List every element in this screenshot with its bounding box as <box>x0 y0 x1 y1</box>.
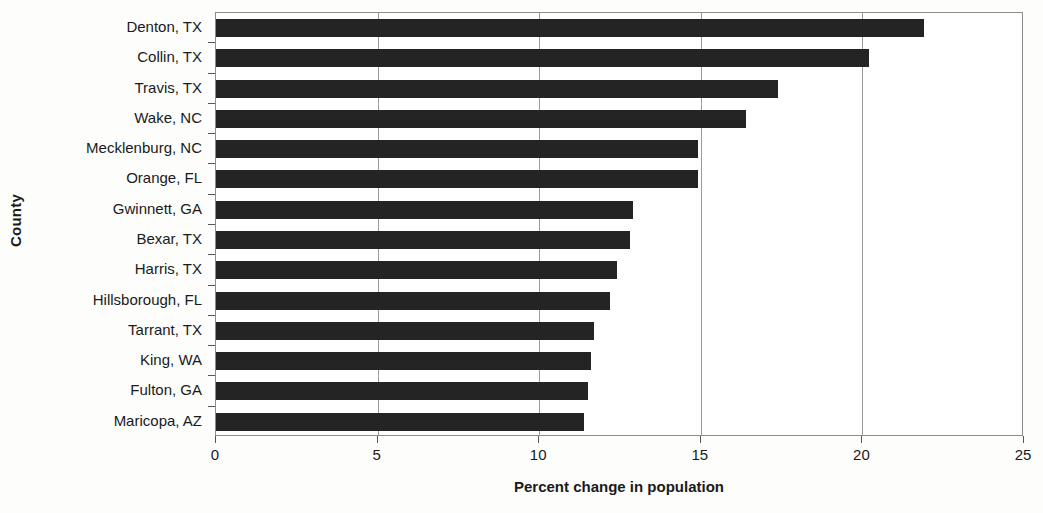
category-label: King, WA <box>140 345 202 375</box>
bar-row <box>216 13 1024 43</box>
y-axis-tick <box>208 73 215 74</box>
category-label: Denton, TX <box>126 12 202 42</box>
bar-row <box>216 104 1024 134</box>
bar-row <box>216 134 1024 164</box>
x-axis-ticks <box>215 436 1023 444</box>
category-label: Tarrant, TX <box>128 315 202 345</box>
bar-row <box>216 164 1024 194</box>
bar-row <box>216 225 1024 255</box>
y-axis-tick <box>208 285 215 286</box>
y-axis-tick <box>208 406 215 407</box>
bar-row <box>216 43 1024 73</box>
category-label: Fulton, GA <box>130 375 202 405</box>
category-label: Travis, TX <box>134 73 202 103</box>
category-label: Collin, TX <box>137 42 202 72</box>
bar <box>216 413 584 431</box>
bar-row <box>216 255 1024 285</box>
x-axis-tick <box>1023 436 1024 443</box>
y-axis-tick <box>208 42 215 43</box>
y-axis-title: County <box>0 0 30 440</box>
bar-chart: County Denton, TXCollin, TXTravis, TXWak… <box>0 0 1043 513</box>
bar-row <box>216 407 1024 437</box>
x-axis-tick <box>700 436 701 443</box>
bar-row <box>216 74 1024 104</box>
plot-area <box>215 12 1023 436</box>
bar <box>216 292 610 310</box>
y-axis-tick <box>208 133 215 134</box>
bar-row <box>216 346 1024 376</box>
bar <box>216 140 698 158</box>
bar <box>216 49 869 67</box>
category-label: Hillsborough, FL <box>93 285 202 315</box>
y-axis-tick <box>208 163 215 164</box>
x-axis-tick-label: 15 <box>691 446 708 463</box>
category-label: Gwinnett, GA <box>113 194 202 224</box>
x-axis-tick <box>377 436 378 443</box>
bar-row <box>216 316 1024 346</box>
bar-row <box>216 376 1024 406</box>
bar <box>216 231 630 249</box>
x-axis-tick-label: 20 <box>853 446 870 463</box>
category-label: Orange, FL <box>126 163 202 193</box>
category-axis-labels: Denton, TXCollin, TXTravis, TXWake, NCMe… <box>30 12 210 436</box>
y-axis-tick <box>208 224 215 225</box>
y-axis-tick <box>208 194 215 195</box>
y-axis-tick <box>208 345 215 346</box>
x-axis-tick <box>861 436 862 443</box>
bar <box>216 201 633 219</box>
x-axis-tick-label: 10 <box>530 446 547 463</box>
y-axis-tick <box>208 103 215 104</box>
bar <box>216 170 698 188</box>
bar <box>216 382 588 400</box>
bar <box>216 322 594 340</box>
x-axis-tick-labels: 0510152025 <box>215 446 1023 468</box>
bar <box>216 110 746 128</box>
bar <box>216 352 591 370</box>
x-axis-tick <box>538 436 539 443</box>
category-label: Mecklenburg, NC <box>86 133 202 163</box>
x-axis-tick-label: 25 <box>1015 446 1032 463</box>
bar <box>216 80 778 98</box>
y-axis-title-text: County <box>7 194 24 247</box>
bar-row <box>216 195 1024 225</box>
category-label: Maricopa, AZ <box>114 406 202 436</box>
category-label: Wake, NC <box>134 103 202 133</box>
y-axis-tick <box>208 375 215 376</box>
x-axis-tick-label: 0 <box>211 446 219 463</box>
bar-row <box>216 286 1024 316</box>
x-axis-tick-label: 5 <box>372 446 380 463</box>
category-label: Harris, TX <box>135 254 202 284</box>
bar <box>216 19 924 37</box>
x-axis-tick <box>215 436 216 443</box>
y-axis-tick <box>208 254 215 255</box>
bar <box>216 261 617 279</box>
x-axis-title: Percent change in population <box>215 478 1023 495</box>
y-axis-tick <box>208 315 215 316</box>
category-label: Bexar, TX <box>136 224 202 254</box>
